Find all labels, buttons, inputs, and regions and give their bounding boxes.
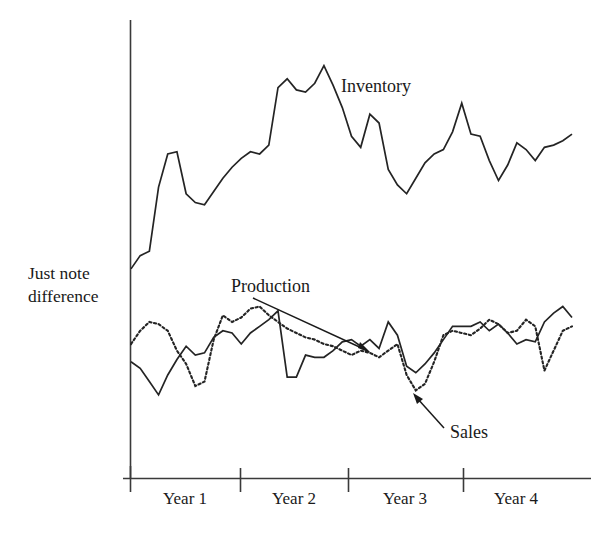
y-axis-label-line2: difference bbox=[28, 286, 99, 306]
series-line-inventory bbox=[131, 66, 572, 269]
line-chart-svg: Just note difference Year 1 Year 2 Year … bbox=[0, 0, 606, 547]
series-line-sales bbox=[131, 306, 572, 390]
series-label-sales: Sales bbox=[450, 422, 488, 442]
x-tick-label-year-2: Year 2 bbox=[272, 489, 316, 508]
series-line-production bbox=[131, 306, 572, 394]
series-label-inventory: Inventory bbox=[341, 76, 411, 96]
x-tick-label-year-4: Year 4 bbox=[494, 489, 539, 508]
y-axis-label-line1: Just note bbox=[28, 263, 90, 283]
production-annotation-arrow bbox=[253, 298, 371, 353]
sales-annotation-arrow bbox=[413, 393, 444, 428]
chart-figure: Just note difference Year 1 Year 2 Year … bbox=[0, 0, 606, 547]
x-tick-label-year-3: Year 3 bbox=[383, 489, 427, 508]
x-tick-label-year-1: Year 1 bbox=[163, 489, 207, 508]
series-label-production: Production bbox=[231, 276, 310, 296]
